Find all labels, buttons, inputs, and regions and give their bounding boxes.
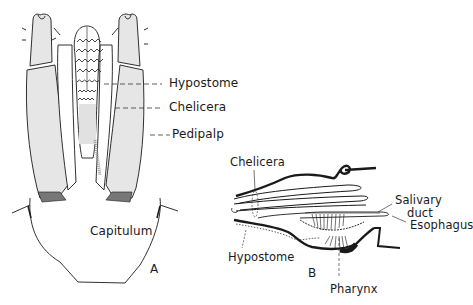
label-pharynx: Pharynx — [330, 282, 378, 296]
label-capitulum: Capitulum — [90, 224, 153, 238]
label-chelicera-b: Chelicera — [230, 155, 285, 169]
leader-hypostome-b — [242, 230, 246, 248]
label-chelicera-a: Chelicera — [169, 100, 226, 114]
label-hypostome-b: Hypostome — [228, 250, 295, 264]
panel-letter-b: B — [308, 266, 316, 280]
label-pedipalp: Pedipalp — [172, 127, 224, 141]
panel-letter-a: A — [150, 262, 158, 276]
leader-chelicera-b — [254, 170, 255, 190]
leader-esophagus — [392, 216, 406, 222]
capitulum-outline — [30, 198, 161, 283]
panel-a-drawing — [12, 14, 178, 283]
label-esophagus: Esophagus — [410, 218, 473, 232]
label-salivary-line1: Salivary — [395, 193, 442, 207]
leader-salivary — [378, 204, 392, 212]
label-hypostome-a: Hypostome — [169, 76, 238, 90]
